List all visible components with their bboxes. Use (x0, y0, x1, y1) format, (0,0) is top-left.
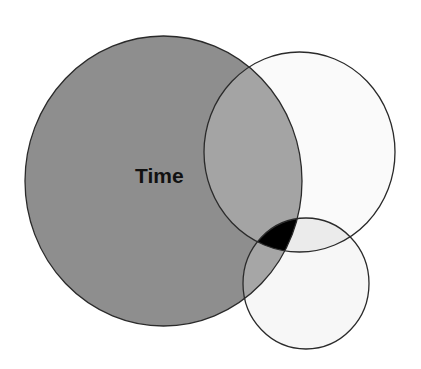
venn-diagram (0, 0, 421, 369)
label-time: Time (135, 165, 184, 186)
